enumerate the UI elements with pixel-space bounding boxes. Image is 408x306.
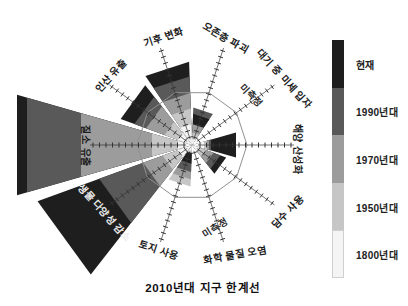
wedge-1800s [192,139,195,145]
legend-label: 1950년대 [356,199,398,214]
legend-swatch [332,40,344,88]
planetary-boundaries-chart: 기후 변화오존층 파괴대기 중 미세 입자해양 산성화담수 사용화학 물질 오염… [0,0,408,306]
legend-swatch [332,88,344,136]
legend-label: 현재 [356,56,375,71]
sector-label: 해양 산성화 [291,124,306,175]
legend-swatch [332,135,344,183]
legend-swatch [332,183,344,231]
legend-label: 1800년대 [356,247,398,262]
legend-swatch [332,230,344,278]
chart-caption: 2010년대 지구 한계선 [145,279,260,295]
legend-label: 1970년대 [356,152,398,167]
legend-label: 1990년대 [356,104,398,119]
sector-label: 질소 유출 [79,125,94,166]
